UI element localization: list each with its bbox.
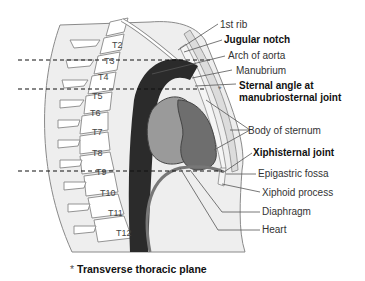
label-heart: Heart	[262, 224, 286, 235]
figure-footnote: *Transverse thoracic plane	[70, 263, 207, 275]
footnote-text: Transverse thoracic plane	[77, 263, 207, 275]
vertebra-label: T12	[116, 228, 132, 238]
vertebra-label: T7	[92, 127, 103, 137]
vertebra-label: T8	[92, 148, 103, 158]
vertebra-label: T9	[96, 167, 107, 177]
label-epigastric-fossa: Epigastric fossa	[258, 168, 329, 179]
label-xiphoid-process: Xiphoid process	[262, 187, 333, 198]
label-body-of-sternum: Body of sternum	[248, 125, 321, 136]
asterisk-marker: *	[218, 84, 222, 95]
label-xiphisternal-joint: Xiphisternal joint	[253, 147, 334, 158]
label-arch-of-aorta: Arch of aorta	[228, 50, 285, 61]
label-jugular-notch: Jugular notch	[224, 34, 290, 45]
vertebra-label: T3	[104, 56, 115, 66]
label-sternal-angle-1: Sternal angle at	[239, 80, 313, 91]
vertebra-label: T2	[112, 40, 123, 50]
label-sternal-angle-2: manubriosternal joint	[239, 92, 341, 103]
vertebra-label: T6	[90, 108, 101, 118]
vertebra-label: T11	[108, 208, 123, 218]
vertebra-label: T4	[98, 72, 109, 82]
vertebra-label: T10	[100, 188, 116, 198]
label-diaphragm: Diaphragm	[262, 206, 311, 217]
footnote-asterisk: *	[70, 263, 74, 275]
label-first-rib: 1st rib	[220, 19, 247, 30]
thorax-illustration	[0, 0, 365, 281]
label-manubrium: Manubrium	[236, 65, 286, 76]
vertebra-label: T5	[92, 91, 103, 101]
anatomy-figure: T2 T3 T4 T5 T6 T7 T8 T9 T10 T11 T12 1st …	[0, 0, 365, 281]
